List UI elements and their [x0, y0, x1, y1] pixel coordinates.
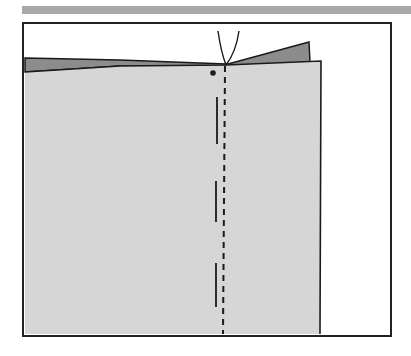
fabric-top-layer [25, 61, 321, 334]
sewing-diagram [0, 0, 411, 356]
marker-dot [210, 70, 216, 76]
